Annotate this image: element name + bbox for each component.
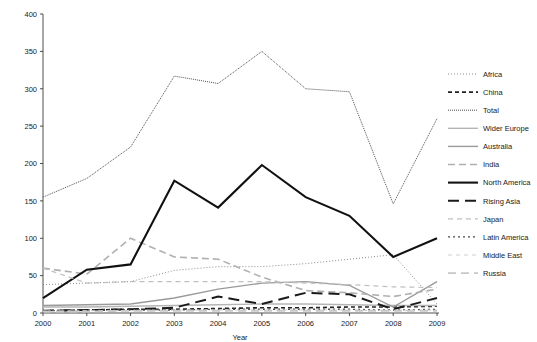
x-tick-label: 2003: [166, 319, 183, 328]
x-tick-label: 2008: [385, 319, 402, 328]
legend-label-middle-east: Middle East: [483, 251, 523, 260]
series-line-total: [43, 51, 437, 203]
legend-label-total: Total: [483, 106, 499, 115]
y-tick-label: 100: [24, 234, 37, 243]
series-lines: [43, 51, 437, 311]
x-axis-title: Year: [232, 333, 248, 342]
x-tick-label: 2002: [122, 319, 139, 328]
x-tick-label: 2007: [341, 319, 358, 328]
legend-label-japan: Japan: [483, 215, 503, 224]
legend-label-africa: Africa: [483, 70, 503, 79]
x-tick-label: 2005: [254, 319, 271, 328]
legend-label-russia: Russia: [483, 269, 507, 278]
x-tick-label: 2000: [35, 319, 52, 328]
series-line-africa: [43, 255, 437, 304]
legend-label-wider-europe: Wider Europe: [483, 124, 529, 133]
x-tick-label: 2004: [210, 319, 227, 328]
chart-legend: AfricaChinaTotalWider EuropeAustraliaInd…: [448, 70, 531, 278]
series-line-japan: [43, 268, 437, 287]
x-axis: 2000200120022003200420052006200720082009: [35, 313, 446, 328]
y-tick-label: 0: [33, 309, 37, 318]
y-tick-label: 400: [24, 10, 37, 19]
line-chart: 050100150200250300350400 200020012002200…: [0, 0, 537, 342]
y-tick-label: 150: [24, 197, 37, 206]
legend-label-rising-asia: Rising Asia: [483, 197, 521, 206]
legend-label-australia: Australia: [483, 142, 513, 151]
series-line-australia: [43, 282, 437, 307]
x-tick-label: 2001: [78, 319, 95, 328]
y-tick-label: 250: [24, 122, 37, 131]
y-tick-label: 200: [24, 159, 37, 168]
y-tick-label: 300: [24, 85, 37, 94]
legend-label-india: India: [483, 160, 500, 169]
legend-label-china: China: [483, 88, 503, 97]
y-axis: 050100150200250300350400: [24, 10, 43, 318]
x-tick-label: 2009: [429, 319, 446, 328]
legend-label-latin-america: Latin America: [483, 233, 529, 242]
series-line-russia: [43, 311, 437, 312]
x-tick-label: 2006: [297, 319, 314, 328]
series-line-north-america: [43, 165, 437, 298]
y-tick-label: 50: [29, 271, 37, 280]
y-tick-label: 350: [24, 47, 37, 56]
chart-canvas: 050100150200250300350400 200020012002200…: [0, 0, 537, 342]
legend-label-north-america: North America: [483, 178, 531, 187]
